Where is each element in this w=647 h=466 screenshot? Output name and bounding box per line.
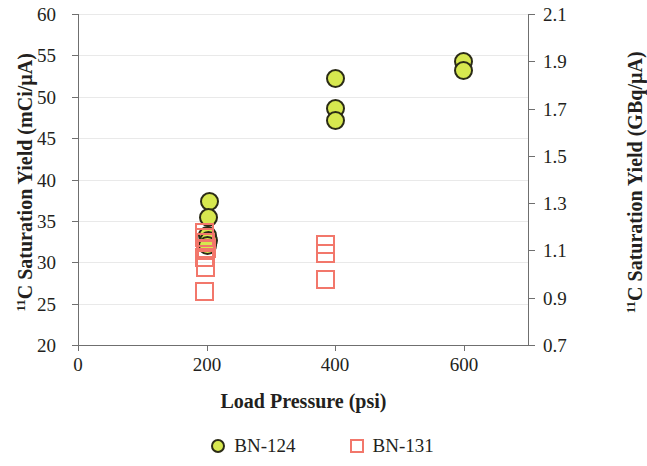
gridline bbox=[79, 138, 528, 139]
y-axis-right-tick bbox=[529, 156, 535, 157]
legend-label: BN-124 bbox=[234, 436, 295, 455]
y-axis-left-tick-label: 60 bbox=[37, 5, 56, 24]
circle-marker-icon bbox=[211, 439, 225, 453]
gridline bbox=[79, 262, 528, 263]
y-axis-right-line bbox=[528, 14, 529, 345]
y-axis-left-tick bbox=[72, 221, 78, 222]
y-axis-right-tick bbox=[529, 203, 535, 204]
y-axis-right-tick-label: 0.7 bbox=[543, 336, 567, 355]
y-axis-left-tick bbox=[72, 180, 78, 181]
gridline bbox=[79, 304, 528, 305]
x-axis-tick-label: 200 bbox=[193, 355, 222, 374]
x-axis-line bbox=[78, 345, 529, 346]
data-point-bn-131 bbox=[196, 258, 215, 277]
y-axis-left-tick-label: 45 bbox=[37, 129, 56, 148]
x-axis-tick-label: 600 bbox=[450, 355, 479, 374]
data-point-bn-124 bbox=[454, 61, 473, 80]
gridline bbox=[79, 180, 528, 181]
y-axis-left-tick bbox=[72, 55, 78, 56]
y-axis-right-tick bbox=[529, 109, 535, 110]
y-axis-left-tick bbox=[72, 97, 78, 98]
gridline bbox=[79, 14, 528, 15]
legend-item-series-0[interactable]: BN-124 bbox=[211, 436, 295, 455]
y-axis-right-tick bbox=[529, 61, 535, 62]
y-axis-left-tick-label: 40 bbox=[37, 171, 56, 190]
y-axis-right-tick bbox=[529, 250, 535, 251]
y-axis-right-tick-label: 2.1 bbox=[543, 5, 567, 24]
data-point-bn-131 bbox=[316, 270, 335, 289]
y-axis-right-tick-label: 1.3 bbox=[543, 194, 567, 213]
y-axis-left-tick-label: 55 bbox=[37, 46, 56, 65]
x-axis-tick bbox=[207, 345, 208, 351]
y-axis-right-tick-label: 1.9 bbox=[543, 52, 567, 71]
y-axis-right-tick-label: 0.9 bbox=[543, 289, 567, 308]
y-axis-right-tick-label: 1.5 bbox=[543, 147, 567, 166]
y-axis-left-tick bbox=[72, 304, 78, 305]
x-axis-tick bbox=[335, 345, 336, 351]
y-axis-left-tick-label: 50 bbox=[37, 88, 56, 107]
y-axis-left-tick bbox=[72, 138, 78, 139]
y-axis-right-tick-label: 1.7 bbox=[543, 100, 567, 119]
legend-label: BN-131 bbox=[373, 436, 434, 455]
x-axis-tick-label: 0 bbox=[73, 355, 83, 374]
data-point-bn-131 bbox=[195, 282, 214, 301]
y-axis-right-tick bbox=[529, 345, 535, 346]
data-point-bn-124 bbox=[326, 111, 345, 130]
x-axis-tick bbox=[464, 345, 465, 351]
y-axis-left-title: 11C Saturation Yield (mCi/µA) bbox=[13, 17, 38, 347]
y-axis-right-tick bbox=[529, 14, 535, 15]
y-axis-left-tick bbox=[72, 14, 78, 15]
y-axis-left-tick bbox=[72, 262, 78, 263]
y-axis-left-tick-label: 25 bbox=[37, 295, 56, 314]
legend-item-series-1[interactable]: BN-131 bbox=[350, 436, 434, 455]
data-point-bn-131 bbox=[316, 244, 335, 263]
gridline bbox=[79, 97, 528, 98]
data-point-bn-124 bbox=[326, 69, 345, 88]
y-axis-left-tick-label: 35 bbox=[37, 212, 56, 231]
gridline bbox=[79, 221, 528, 222]
y-axis-left-tick-label: 20 bbox=[37, 336, 56, 355]
x-axis-title: Load Pressure (psi) bbox=[78, 390, 529, 413]
y-axis-right-title: 11C Saturation Yield (GBq/µA) bbox=[623, 17, 647, 347]
x-axis-tick bbox=[78, 345, 79, 351]
x-axis-tick-label: 400 bbox=[321, 355, 350, 374]
square-marker-icon bbox=[350, 439, 364, 453]
y-axis-left-tick-label: 30 bbox=[37, 253, 56, 272]
chart-legend: BN-124 BN-131 bbox=[0, 436, 645, 455]
y-axis-right-tick bbox=[529, 298, 535, 299]
y-axis-right-tick-label: 1.1 bbox=[543, 241, 567, 260]
